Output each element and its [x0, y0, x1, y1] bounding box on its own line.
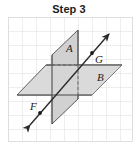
point-f-label: F [29, 100, 37, 112]
figure-container: Step 3 [0, 0, 138, 147]
plane-b-label: B [97, 71, 104, 83]
plane-a-label: A [65, 42, 73, 54]
point-g-label: G [95, 53, 103, 65]
point-g-dot [90, 51, 94, 55]
step-title: Step 3 [0, 2, 138, 16]
geometry-diagram: A B F G [8, 17, 133, 143]
point-f-dot [38, 111, 42, 115]
